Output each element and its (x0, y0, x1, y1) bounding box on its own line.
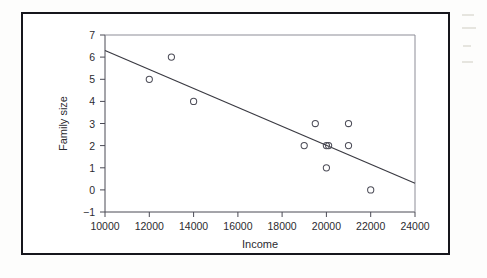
y-tick-label: 6 (89, 51, 95, 63)
x-axis-ticks (105, 212, 415, 217)
y-tick-label: 5 (89, 73, 95, 85)
regression-line (105, 51, 415, 184)
data-point (345, 120, 351, 126)
x-tick-label: 16000 (223, 220, 252, 232)
x-axis-title: Income (242, 238, 278, 250)
scatter-plot: 7 6 5 4 3 2 1 0 −1 (23, 14, 448, 253)
y-tick-label: 4 (89, 95, 95, 107)
y-tick-label: 3 (89, 118, 95, 130)
x-tick-label: 12000 (135, 220, 164, 232)
y-tick-label: 0 (89, 184, 95, 196)
x-axis-tick-labels: 10000 12000 14000 16000 18000 20000 2200… (90, 220, 429, 232)
figure-border: 7 6 5 4 3 2 1 0 −1 (21, 12, 450, 255)
y-axis-tick-labels: 7 6 5 4 3 2 1 0 −1 (83, 29, 95, 218)
scan-artifact (462, 14, 474, 16)
y-tick-label: −1 (83, 206, 95, 218)
data-point (191, 98, 197, 104)
y-tick-label: 7 (89, 29, 95, 41)
data-point (323, 165, 329, 171)
x-tick-label: 10000 (90, 220, 119, 232)
y-tick-label: 1 (89, 162, 95, 174)
y-axis-ticks (100, 35, 105, 212)
data-point (168, 54, 174, 60)
scan-artifact (463, 45, 471, 47)
data-point-group (146, 54, 374, 193)
x-tick-label: 14000 (179, 220, 208, 232)
data-point (312, 120, 318, 126)
data-point (301, 143, 307, 149)
y-axis-title: Family size (57, 96, 69, 151)
scan-artifact (462, 61, 473, 63)
x-tick-label: 18000 (267, 220, 296, 232)
y-tick-label: 2 (89, 140, 95, 152)
figure-container: 7 6 5 4 3 2 1 0 −1 (0, 0, 487, 278)
x-tick-label: 20000 (312, 220, 341, 232)
data-point (345, 143, 351, 149)
x-tick-label: 24000 (400, 220, 429, 232)
data-point (146, 76, 152, 82)
scan-artifact (462, 27, 476, 29)
x-tick-label: 22000 (356, 220, 385, 232)
data-point (368, 187, 374, 193)
